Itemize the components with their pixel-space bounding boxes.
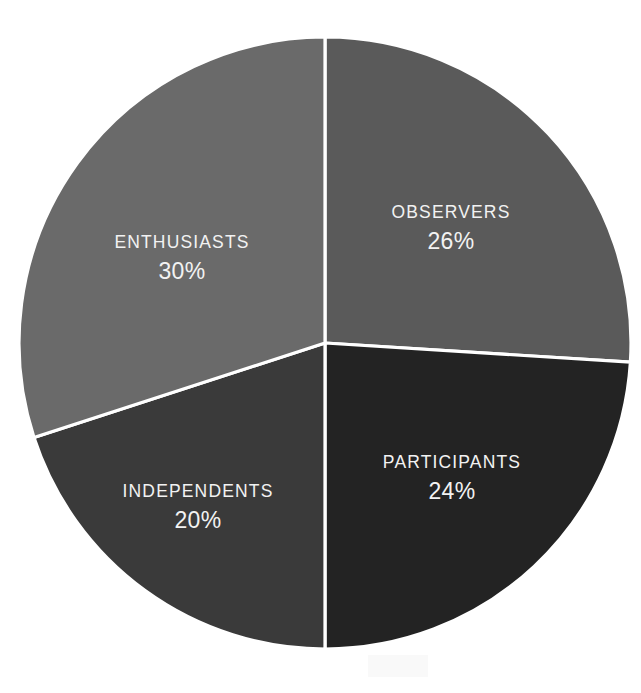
slice-label-name: INDEPENDENTS — [123, 481, 274, 501]
slice-label-value: 20% — [175, 507, 222, 533]
slice-label-name: ENTHUSIASTS — [114, 232, 249, 252]
slice-label-name: OBSERVERS — [392, 202, 511, 222]
slice-label-value: 30% — [159, 258, 206, 284]
pie-chart-figure: OBSERVERS26%PARTICIPANTS24%INDEPENDENTS2… — [0, 0, 641, 693]
pie-slices-group — [19, 37, 631, 649]
slice-label-value: 26% — [428, 228, 475, 254]
pie-chart-canvas: OBSERVERS26%PARTICIPANTS24%INDEPENDENTS2… — [0, 0, 641, 693]
slice-label-name: PARTICIPANTS — [383, 452, 521, 472]
slice-label-value: 24% — [429, 478, 476, 504]
